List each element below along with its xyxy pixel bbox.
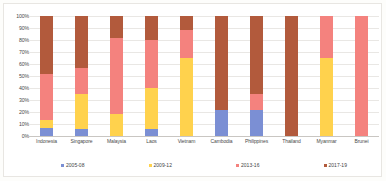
bar-column[interactable] bbox=[309, 16, 344, 136]
bar-segment[interactable] bbox=[180, 16, 193, 30]
stacked-bar[interactable] bbox=[75, 16, 88, 136]
bar-column[interactable] bbox=[134, 16, 169, 136]
legend-swatch-icon bbox=[61, 164, 64, 167]
bar-column[interactable] bbox=[239, 16, 274, 136]
bar-column[interactable] bbox=[204, 16, 239, 136]
bar-segment[interactable] bbox=[75, 68, 88, 94]
legend-label: 2009-12 bbox=[154, 162, 172, 168]
bar-column[interactable] bbox=[169, 16, 204, 136]
legend-swatch-icon bbox=[149, 164, 152, 167]
y-axis-tick: 20% bbox=[4, 109, 29, 115]
legend-item[interactable]: 2013-16 bbox=[236, 162, 259, 168]
y-axis-tick: 30% bbox=[4, 97, 29, 103]
x-axis-label: Myanmar bbox=[309, 138, 344, 150]
x-axis-label: Cambodia bbox=[204, 138, 239, 150]
bar-segment[interactable] bbox=[110, 38, 123, 115]
stacked-bar[interactable] bbox=[320, 16, 333, 136]
bar-segment[interactable] bbox=[145, 129, 158, 136]
stacked-bar[interactable] bbox=[145, 16, 158, 136]
plot-area bbox=[29, 16, 379, 136]
bar-segment[interactable] bbox=[40, 128, 53, 136]
bar-segment[interactable] bbox=[75, 94, 88, 129]
bar-segment[interactable] bbox=[40, 120, 53, 127]
y-axis-tick: 90% bbox=[4, 25, 29, 31]
bar-segment[interactable] bbox=[145, 88, 158, 129]
bar-column[interactable] bbox=[99, 16, 134, 136]
bar-segment[interactable] bbox=[320, 58, 333, 136]
y-axis-tick: 80% bbox=[4, 37, 29, 43]
bar-segment[interactable] bbox=[40, 74, 53, 121]
bar-segment[interactable] bbox=[250, 110, 263, 136]
bar-column[interactable] bbox=[64, 16, 99, 136]
stacked-bar[interactable] bbox=[250, 16, 263, 136]
bar-segment[interactable] bbox=[145, 16, 158, 40]
y-axis-tick: 70% bbox=[4, 49, 29, 55]
bar-segment[interactable] bbox=[320, 16, 333, 58]
x-axis-label: Vietnam bbox=[169, 138, 204, 150]
legend-label: 2013-16 bbox=[241, 162, 259, 168]
bar-segment[interactable] bbox=[180, 58, 193, 136]
x-axis-labels: IndonesiaSingaporeMalaysiaLaosVietnamCam… bbox=[29, 138, 379, 150]
stacked-bar[interactable] bbox=[40, 16, 53, 136]
bar-segment[interactable] bbox=[355, 16, 368, 136]
bar-column[interactable] bbox=[274, 16, 309, 136]
bar-segment[interactable] bbox=[250, 94, 263, 110]
gridline bbox=[29, 136, 379, 137]
legend-swatch-icon bbox=[236, 164, 239, 167]
y-axis-tick: 40% bbox=[4, 85, 29, 91]
x-axis-label: Brunei bbox=[344, 138, 379, 150]
bar-segment[interactable] bbox=[215, 16, 228, 110]
stacked-bar[interactable] bbox=[180, 16, 193, 136]
y-axis-tick: 100% bbox=[4, 13, 29, 19]
x-axis-label: Singapore bbox=[64, 138, 99, 150]
bar-column[interactable] bbox=[344, 16, 379, 136]
x-axis-label: Laos bbox=[134, 138, 169, 150]
y-axis-tick: 10% bbox=[4, 121, 29, 127]
y-axis-tick: 60% bbox=[4, 61, 29, 67]
y-axis-tick: 50% bbox=[4, 73, 29, 79]
bar-segment[interactable] bbox=[110, 16, 123, 38]
bar-segment[interactable] bbox=[180, 30, 193, 58]
stacked-bar[interactable] bbox=[215, 16, 228, 136]
bar-column[interactable] bbox=[29, 16, 64, 136]
bar-segment[interactable] bbox=[250, 16, 263, 94]
x-axis-label: Thailand bbox=[274, 138, 309, 150]
x-axis-label: Philippines bbox=[239, 138, 274, 150]
bar-segment[interactable] bbox=[285, 16, 298, 136]
bar-segment[interactable] bbox=[75, 16, 88, 68]
legend-label: 2005-08 bbox=[66, 162, 84, 168]
legend-label: 2017-19 bbox=[329, 162, 347, 168]
x-axis-label: Indonesia bbox=[29, 138, 64, 150]
legend-item[interactable]: 2005-08 bbox=[61, 162, 84, 168]
bar-segment[interactable] bbox=[110, 114, 123, 136]
y-axis: 100%90%80%70%60%50%40%30%20%10%0% bbox=[4, 10, 29, 142]
stacked-bar[interactable] bbox=[285, 16, 298, 136]
stacked-bar[interactable] bbox=[355, 16, 368, 136]
stacked-bar-chart: 100%90%80%70%60%50%40%30%20%10%0% Indone… bbox=[0, 0, 386, 181]
bar-group bbox=[29, 16, 379, 136]
bar-segment[interactable] bbox=[145, 40, 158, 88]
bar-segment[interactable] bbox=[215, 110, 228, 136]
legend-swatch-icon bbox=[324, 164, 327, 167]
bar-segment[interactable] bbox=[75, 129, 88, 136]
legend-item[interactable]: 2009-12 bbox=[149, 162, 172, 168]
x-axis-label: Malaysia bbox=[99, 138, 134, 150]
legend-item[interactable]: 2017-19 bbox=[324, 162, 347, 168]
chart-legend: 2005-082009-122013-162017-19 bbox=[29, 160, 379, 170]
y-axis-tick: 0% bbox=[4, 133, 29, 139]
bar-segment[interactable] bbox=[40, 16, 53, 74]
stacked-bar[interactable] bbox=[110, 16, 123, 136]
